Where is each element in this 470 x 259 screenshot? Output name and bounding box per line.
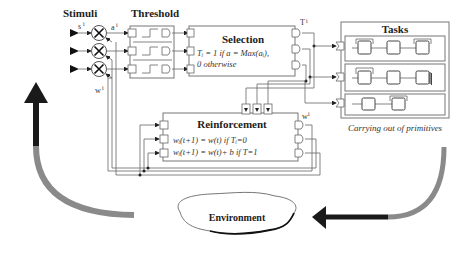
selection-rule-line1: Tᵢ = 1 if a = Max(aᵢ), [197,48,269,58]
tasks-label: Tasks [382,23,409,35]
reinforcement-rule-line2: wᵢ(t+1) = w(t)+ b if T=1 [173,147,258,157]
reinforcement-block: Reinforcement wᵢ(t+1) = w(t) if Tᵢ=0 wᵢ(… [160,104,310,161]
primitive-blocks-row-2 [352,68,432,85]
threshold-block [128,26,188,78]
multiply-icon [92,62,107,77]
svg-text:i: i [116,22,118,28]
multiply-icon [92,26,107,41]
up-arrow-icon [24,82,48,103]
carrying-out-caption: Carrying out of primitives [348,123,443,133]
stimuli-label: Stimuli [63,7,97,19]
T-i-label: T [300,18,305,27]
svg-text:i: i [308,111,310,117]
multipliers: a i w i [92,22,129,95]
left-arrow-icon [312,206,326,229]
a-i-label: a [111,23,115,32]
stimulus-3-triangle-icon [70,65,79,73]
diagram-canvas: Stimuli s i a i w [0,0,470,259]
selection-label: Selection [222,33,264,45]
s-i-label: s [78,22,81,31]
environment-cloud: Environment [178,192,296,234]
primitive-blocks-row-1 [352,39,431,54]
svg-text:i: i [306,18,308,24]
svg-text:i: i [83,21,85,27]
feedback-arrow-left [24,82,134,215]
stimuli-inputs: s i [70,21,91,73]
reinforcement-label: Reinforcement [197,118,267,130]
reinforcement-rule-line1: wᵢ(t+1) = w(t) if Tᵢ=0 [173,135,247,145]
action-arrow-right [312,147,444,229]
threshold-label: Threshold [131,7,179,19]
w-i-label: w [95,86,101,95]
stimulus-2-triangle-icon [70,47,79,55]
selection-rule-line2: 0 otherwise [197,59,237,69]
svg-text:i: i [102,85,104,91]
tasks-block: Tasks [336,22,449,133]
multiply-icon [92,44,107,59]
selection-block: Selection Tᵢ = 1 if a = Max(aᵢ), 0 other… [187,18,308,76]
environment-label: Environment [209,212,266,223]
